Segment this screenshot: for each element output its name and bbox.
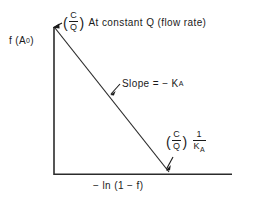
cq-numerator: C	[69, 11, 78, 21]
y-axis-label-base: A	[19, 35, 26, 46]
cq-fraction: C Q	[69, 11, 78, 32]
cq2-numerator: C	[172, 130, 181, 140]
data-line	[55, 28, 169, 172]
y-axis-label: f ( A 0 )	[9, 35, 34, 46]
y-intercept-arrow-icon	[53, 23, 62, 28]
cq2-open-paren: (	[166, 135, 171, 149]
y-axis-label-close-paren: )	[30, 35, 34, 46]
x-intercept-leader-arrow-icon	[166, 157, 173, 170]
slope-leader-arrow-icon	[110, 84, 120, 96]
cq2-close-paren: )	[182, 135, 187, 149]
constant-q-text: At constant Q (flow rate)	[89, 17, 207, 28]
slope-annotation: Slope = − K A	[122, 78, 184, 89]
slope-text: Slope = − K	[122, 78, 179, 89]
cq2-fraction: C Q	[172, 130, 181, 151]
y-intercept-annotation: ( C Q ) At constant Q (flow rate)	[63, 12, 206, 33]
one-over-ka-fraction: 1 KA	[193, 130, 206, 151]
cq2-denominator: Q	[172, 140, 181, 151]
cq-close-paren: )	[79, 16, 84, 30]
ka-subscript: A	[200, 146, 205, 153]
figure-container: f ( A 0 ) ( C Q ) At constant Q (flow ra…	[0, 0, 263, 204]
x-intercept-annotation: ( C Q ) 1 KA	[166, 131, 207, 152]
one-over-ka-denominator: KA	[193, 140, 206, 151]
y-axis-label-f: f	[9, 35, 12, 46]
cq-fraction-group: ( C Q )	[63, 12, 85, 33]
one-over-ka-numerator: 1	[196, 130, 203, 140]
x-axis-label: − ln (1 − f)	[93, 180, 143, 191]
cq-fraction-group-2: ( C Q )	[166, 131, 188, 152]
cq-denominator: Q	[69, 21, 78, 32]
cq-open-paren: (	[63, 16, 68, 30]
